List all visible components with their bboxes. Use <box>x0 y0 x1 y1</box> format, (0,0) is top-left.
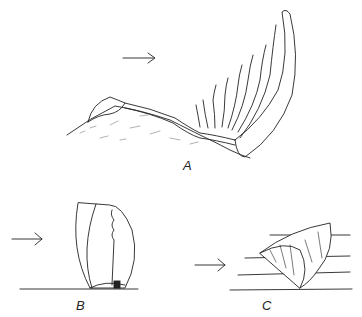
panel-a-sediment-mound <box>67 97 250 158</box>
panel-c-current-arrow-icon <box>195 259 225 271</box>
panel-a-crinoid-stem <box>125 103 235 145</box>
panel-label-a: A <box>183 158 192 173</box>
panel-c-shell <box>260 223 331 288</box>
figure: A B C <box>0 0 362 317</box>
panel-b-current-arrow-icon <box>12 233 42 245</box>
panel-label-c: C <box>262 298 271 313</box>
figure-drawing <box>0 0 362 317</box>
panel-label-b: B <box>76 298 85 313</box>
panel-a-current-arrow-icon <box>123 53 155 63</box>
panel-b-shell <box>76 203 135 288</box>
